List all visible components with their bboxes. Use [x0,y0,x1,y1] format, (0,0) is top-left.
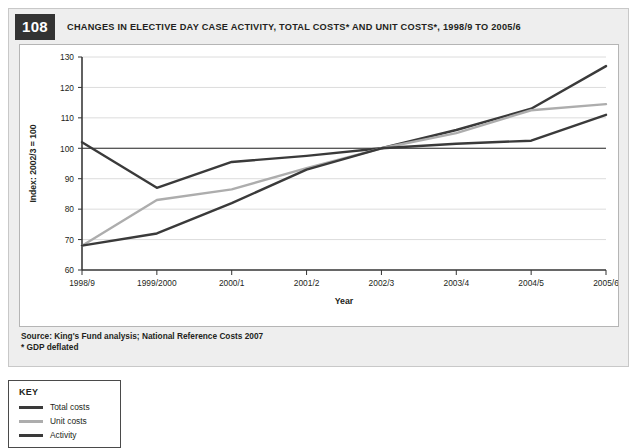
line-chart: 607080901001101201301998/91999/20002000/… [20,45,618,326]
legend-label-total-costs: Total costs [50,402,90,412]
legend-item-unit-costs: Unit costs [19,416,120,426]
legend-swatch-total-costs [19,406,43,409]
legend-swatch-activity [19,434,43,437]
x-tick-label: 2001/2 [294,278,320,288]
legend-swatch-unit-costs [19,420,43,423]
series-line-total-costs [82,66,606,188]
source-line-1: Source: King's Fund analysis; National R… [21,331,263,342]
x-tick-label: 2003/4 [443,278,469,288]
x-tick-label: 2000/1 [219,278,245,288]
figure-number-badge: 108 [15,14,55,40]
y-tick-label: 90 [65,174,75,184]
y-axis-title: Index: 2002/3 = 100 [28,124,38,202]
figure-title: CHANGES IN ELECTIVE DAY CASE ACTIVITY, T… [67,22,521,32]
y-tick-label: 130 [60,52,74,62]
y-tick-label: 70 [65,235,75,245]
source-footnote: * GDP deflated [21,342,263,353]
x-tick-label: 2002/3 [369,278,395,288]
legend-item-activity: Activity [19,430,120,440]
legend-title: KEY [19,387,120,397]
series-line-activity [82,115,606,246]
legend-label-activity: Activity [50,430,77,440]
figure-container: 108 CHANGES IN ELECTIVE DAY CASE ACTIVIT… [8,8,629,367]
source-note: Source: King's Fund analysis; National R… [21,331,263,353]
chart-plot-card: 607080901001101201301998/91999/20002000/… [19,44,619,327]
x-tick-label: 2005/6 [593,278,618,288]
legend-item-total-costs: Total costs [19,402,120,412]
chart-area: 607080901001101201301998/91999/20002000/… [20,45,618,326]
figure-header: 108 CHANGES IN ELECTIVE DAY CASE ACTIVIT… [9,9,628,44]
y-tick-label: 110 [61,113,75,123]
series-line-unit-costs [82,104,606,245]
x-tick-label: 1999/2000 [137,278,177,288]
chart-legend-key: KEY Total costs Unit costs Activity [8,380,121,448]
y-tick-label: 80 [65,204,75,214]
x-tick-label: 2004/5 [518,278,544,288]
y-tick-label: 120 [60,83,74,93]
y-tick-label: 100 [60,144,74,154]
legend-label-unit-costs: Unit costs [50,416,87,426]
y-tick-label: 60 [65,265,75,275]
x-axis-title: Year [335,296,354,306]
x-tick-label: 1998/9 [69,278,95,288]
